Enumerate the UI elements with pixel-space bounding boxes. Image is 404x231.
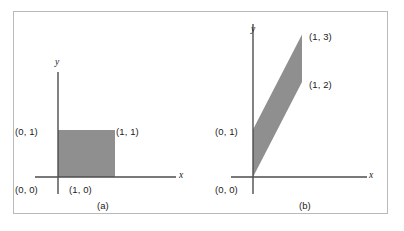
vertex-label-0-1: (0, 1) [15,127,38,137]
panel-a-plot [13,11,202,214]
panel-a: y x (0, 1) (1, 1) (0, 0) (1, 0) (a) [13,11,202,214]
figure-root: y x (0, 1) (1, 1) (0, 0) (1, 0) (a) y x … [0,0,404,231]
vertex-label-0-0: (0, 0) [15,185,38,195]
y-axis-label: y [251,25,255,35]
vertex-label-1-3: (1, 3) [309,32,332,42]
x-axis-label: x [179,171,183,181]
vertex-label-1-2: (1, 2) [309,80,332,90]
vertex-label-0-1: (0, 1) [215,127,238,137]
unit-square-shape [58,130,115,177]
panel-b: y x (1, 3) (1, 2) (0, 1) (0, 0) (b) [199,11,388,214]
x-axis-label: x [369,171,373,181]
panel-a-caption: (a) [97,201,109,211]
panel-b-caption: (b) [299,201,311,211]
parallelogram-shape [253,35,302,178]
vertex-label-1-0: (1, 0) [69,185,92,195]
y-axis-label: y [55,58,59,68]
vertex-label-1-1: (1, 1) [116,127,139,137]
vertex-label-0-0: (0, 0) [215,185,238,195]
